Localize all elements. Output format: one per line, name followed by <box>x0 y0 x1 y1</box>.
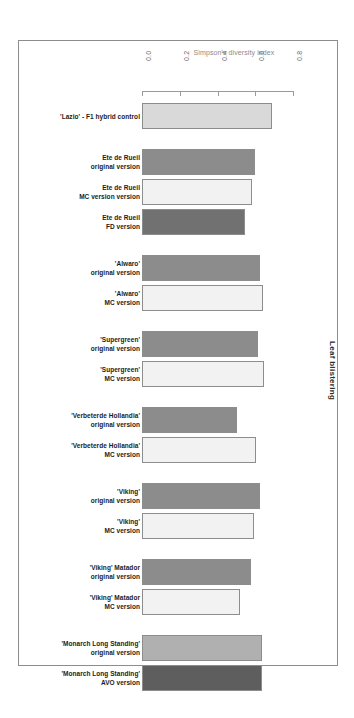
bar <box>142 149 255 175</box>
bar-group: 'Monarch Long Standing' original version… <box>19 633 339 693</box>
x-tick-mark <box>142 91 143 96</box>
bar-label: 'Monarch Long Standing' original version <box>61 639 140 657</box>
bar-row: Ete de Rueil FD version <box>19 207 339 237</box>
bar-label: 'Supergreen' MC version <box>100 365 140 383</box>
bar-row: 'Supergreen' MC version <box>19 359 339 389</box>
x-tick-label: 0.2 <box>183 51 190 61</box>
plot-area: 'Lazio' - F1 hybrid controlEte de Rueil … <box>19 101 339 657</box>
bar-row: 'Monarch Long Standing' original version <box>19 633 339 663</box>
bar <box>142 437 256 463</box>
bar-label: 'Alwaro' MC version <box>104 289 140 307</box>
bar <box>142 103 272 129</box>
bar-label: 'Viking' Matador original version <box>90 563 140 581</box>
bar <box>142 255 260 281</box>
bar-row: 'Viking' Matador original version <box>19 557 339 587</box>
y-axis-caption: Leaf blistering <box>328 341 337 400</box>
group-spacer <box>19 131 339 147</box>
bar-row: 'Viking' original version <box>19 481 339 511</box>
group-spacer <box>19 465 339 481</box>
x-tick-label: 0.0 <box>145 51 152 61</box>
group-spacer <box>19 313 339 329</box>
bar-label: Ete de Rueil FD version <box>102 213 140 231</box>
bar-label: Ete de Rueil MC version version <box>79 183 140 201</box>
x-tick-label: 0.6 <box>258 51 265 61</box>
bar-label: 'Monarch Long Standing' AVO version <box>61 669 140 687</box>
x-axis-line-group <box>19 91 339 98</box>
bar-group: 'Viking' original version'Viking' MC ver… <box>19 481 339 541</box>
group-spacer <box>19 617 339 633</box>
bar <box>142 589 240 615</box>
bar-row: 'Viking' Matador MC version <box>19 587 339 617</box>
bar-group: 'Supergreen' original version'Supergreen… <box>19 329 339 389</box>
x-tick-mark <box>180 91 181 96</box>
x-tick-mark <box>293 91 294 96</box>
bar-group: 'Verbeterde Hollandia' original version'… <box>19 405 339 465</box>
group-spacer <box>19 237 339 253</box>
bar-group: 'Viking' Matador original version'Viking… <box>19 557 339 617</box>
bar <box>142 559 251 585</box>
bar-row: Ete de Rueil original version <box>19 147 339 177</box>
bar-group: Ete de Rueil original versionEte de Ruei… <box>19 147 339 237</box>
bar <box>142 483 260 509</box>
bar <box>142 331 258 357</box>
bar-label: 'Verbeterde Hollandia' original version <box>71 411 140 429</box>
bar <box>142 635 262 661</box>
bar-row: 'Lazio' - F1 hybrid control <box>19 101 339 131</box>
group-spacer <box>19 389 339 405</box>
bar-label: 'Viking' original version <box>91 487 140 505</box>
bar-row: 'Alwaro' original version <box>19 253 339 283</box>
bar-row: 'Alwaro' MC version <box>19 283 339 313</box>
bar-row: 'Verbeterde Hollandia' original version <box>19 405 339 435</box>
bar-group: 'Lazio' - F1 hybrid control <box>19 101 339 131</box>
bar-label: 'Supergreen' original version <box>91 335 140 353</box>
x-tick-mark <box>255 91 256 96</box>
x-tick-mark <box>218 91 219 96</box>
bar-group: 'Alwaro' original version'Alwaro' MC ver… <box>19 253 339 313</box>
chart-frame: Simpson's diversity index 0.00.20.40.60.… <box>18 40 338 666</box>
bar-label: 'Viking' Matador MC version <box>90 593 140 611</box>
bar-label: 'Verbeterde Hollandia' MC version <box>71 441 140 459</box>
x-tick-label: 0.4 <box>221 51 228 61</box>
bar-label: Ete de Rueil original version <box>91 153 140 171</box>
bar <box>142 407 237 433</box>
bar <box>142 179 252 205</box>
bar <box>142 285 263 311</box>
bar <box>142 665 262 691</box>
bar-row: 'Monarch Long Standing' AVO version <box>19 663 339 693</box>
bar-label: 'Lazio' - F1 hybrid control <box>60 112 140 121</box>
bar-row: 'Viking' MC version <box>19 511 339 541</box>
bar-label: 'Viking' MC version <box>104 517 140 535</box>
x-tick-label: 0.8 <box>296 51 303 61</box>
bar-row: 'Supergreen' original version <box>19 329 339 359</box>
bar-row: 'Verbeterde Hollandia' MC version <box>19 435 339 465</box>
bar-row: Ete de Rueil MC version version <box>19 177 339 207</box>
bar <box>142 361 264 387</box>
bar-label: 'Alwaro' original version <box>91 259 140 277</box>
group-spacer <box>19 541 339 557</box>
x-axis-tick-labels: 0.00.20.40.60.8 <box>19 61 339 89</box>
bar <box>142 513 254 539</box>
bar <box>142 209 245 235</box>
